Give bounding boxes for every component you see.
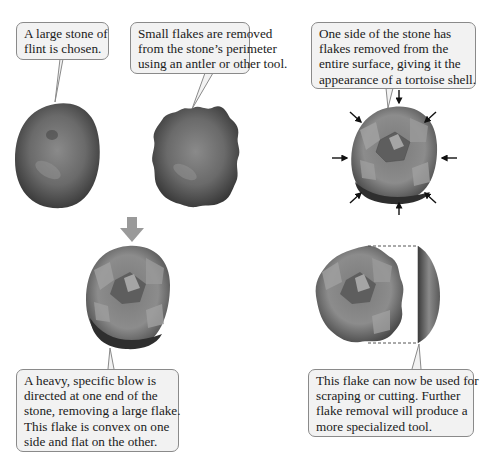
caption-line: A large stone of: [24, 26, 102, 41]
caption-line: using an antler or other tool.: [138, 56, 243, 71]
callout-pointer: [386, 88, 393, 108]
flaked-stone: [152, 106, 239, 207]
step-3-illustration: [332, 88, 457, 215]
step-1-illustration: [15, 59, 100, 208]
detached-flake: [418, 246, 440, 343]
callout-pointer: [412, 344, 421, 369]
caption-line: Small flakes are removed: [138, 26, 243, 41]
step-4-illustration: [86, 217, 170, 369]
caption-line: appearance of a tortoise shell.: [319, 72, 469, 87]
caption-line: This flake can now be used for: [316, 373, 467, 388]
blow-arrow-icon: [120, 217, 144, 242]
caption-line: entire surface, giving it the: [319, 56, 469, 71]
callout-step-1: A large stone of flint is chosen.: [16, 22, 109, 60]
caption-line: scraping or cutting. Further: [316, 388, 467, 403]
caption-line: One side of the stone has: [319, 26, 469, 41]
caption-line: stone, removing a large flake.: [24, 403, 172, 418]
arrow-icon: [350, 112, 361, 122]
callout-step-4: A heavy, specific blow is directed at on…: [16, 369, 179, 452]
step-2-illustration: [152, 73, 239, 207]
caption-line: This flake is convex on one: [24, 419, 172, 434]
caption-line: more specialized tool.: [316, 419, 467, 434]
caption-line: directed at one end of the: [24, 388, 172, 403]
callout-pointer: [108, 348, 114, 369]
callout-pointer: [55, 59, 63, 102]
flint-knapping-diagram: A large stone of flint is chosen. Small …: [0, 0, 491, 460]
caption-line: flakes removed from the: [319, 41, 469, 56]
arrow-icon: [425, 112, 436, 122]
caption-line: flint is chosen.: [24, 41, 102, 56]
arrow-icon: [350, 193, 361, 203]
callout-step-5: This flake can now be used for scraping …: [308, 369, 474, 437]
flint-stone: [15, 103, 100, 208]
callout-pointer: [192, 73, 213, 109]
caption-line: side and flat on the other.: [24, 434, 172, 449]
callout-step-2: Small flakes are removed from the stone’…: [130, 22, 250, 74]
caption-line: from the stone’s perimeter: [138, 41, 243, 56]
arrow-icon: [425, 193, 436, 203]
step-5-illustration: [316, 246, 440, 369]
caption-line: A heavy, specific blow is: [24, 373, 172, 388]
caption-line: flake removal will produce a: [316, 403, 467, 418]
callout-step-3: One side of the stone has flakes removed…: [311, 22, 476, 89]
